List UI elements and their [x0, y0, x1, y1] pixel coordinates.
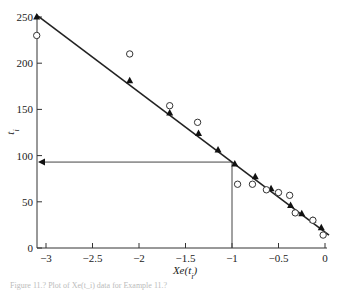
circle-marker — [320, 232, 326, 238]
circle-marker — [286, 192, 292, 198]
y-tick-label: 100 — [17, 150, 34, 162]
circle-marker — [263, 187, 269, 193]
circle-marker — [127, 51, 133, 57]
y-tick-label: 50 — [22, 196, 34, 208]
triangle-marker — [126, 77, 133, 84]
circle-marker — [275, 189, 281, 195]
circle-marker — [234, 181, 240, 187]
x-tick-label: −3 — [40, 252, 52, 264]
x-tick-label: −1.5 — [176, 252, 196, 264]
chart: 050100150200250−3−2.5−2−1.5−1−0.50 Xe(ti… — [0, 0, 344, 291]
x-tick-label: 0 — [322, 252, 328, 264]
regression-line — [37, 15, 329, 235]
axes: 050100150200250−3−2.5−2−1.5−1−0.50 — [17, 11, 329, 264]
fit-line — [37, 15, 329, 235]
x-tick-label: −0.5 — [269, 252, 289, 264]
circle-marker — [34, 32, 40, 38]
x-tick-label: −2.5 — [83, 252, 103, 264]
x-tick-label: −1 — [226, 252, 238, 264]
arrow-head-icon — [38, 159, 45, 166]
data-points — [33, 13, 326, 238]
triangle-marker — [195, 129, 202, 136]
y-axis-label: ti — [4, 129, 21, 134]
y-tick-label: 200 — [17, 57, 34, 69]
y-tick-label: 250 — [17, 11, 34, 23]
x-axis-label: Xe(ti) — [172, 264, 198, 281]
guide-lines — [38, 159, 232, 248]
circle-marker — [249, 181, 255, 187]
triangle-marker — [166, 109, 173, 116]
figure-caption: Figure 11.? Plot of Xe(t_i) data for Exa… — [10, 281, 167, 290]
circle-marker — [166, 103, 172, 109]
y-tick-label: 0 — [28, 242, 34, 254]
circle-marker — [194, 119, 200, 125]
x-tick-label: −2 — [133, 252, 145, 264]
circle-marker — [310, 217, 316, 223]
triangle-marker — [252, 173, 259, 180]
circle-marker — [292, 210, 298, 216]
y-tick-label: 150 — [17, 103, 34, 115]
